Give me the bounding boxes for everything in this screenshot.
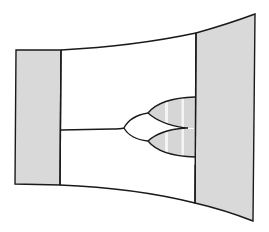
- left-panel: [15, 50, 61, 185]
- right-panel: [195, 14, 255, 221]
- left-panel-inner-wall: [60, 50, 61, 185]
- diagram-canvas: [0, 0, 269, 232]
- stem-line: [61, 128, 124, 130]
- funnel-branch-diagram: [0, 0, 269, 232]
- chamber-bottom-edge: [60, 185, 195, 203]
- chamber-top-edge: [61, 33, 196, 50]
